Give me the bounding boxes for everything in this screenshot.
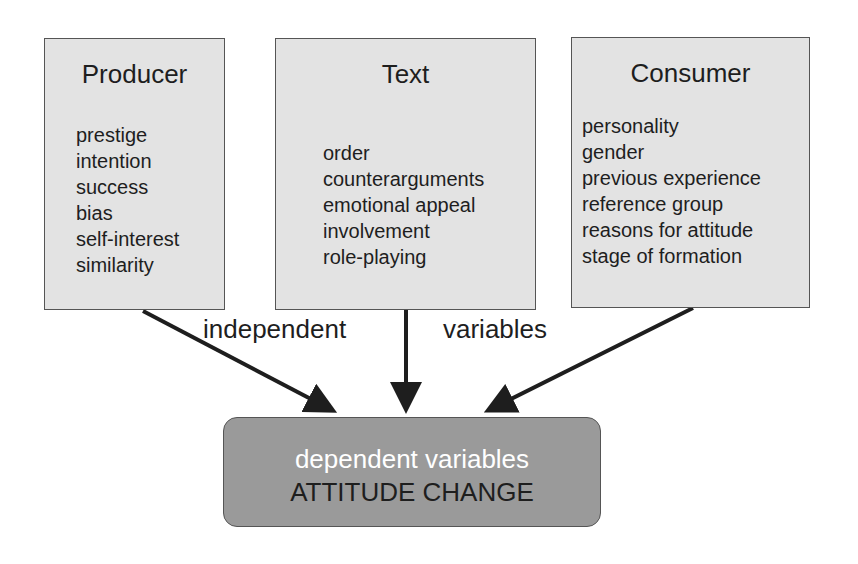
list-item: intention [76, 148, 179, 174]
list-item: previous experience [582, 165, 761, 191]
list-item: emotional appeal [323, 192, 484, 218]
producer-list: prestige intention success bias self-int… [76, 122, 179, 278]
list-item: reference group [582, 191, 761, 217]
list-item: role-playing [323, 244, 484, 270]
list-item: personality [582, 113, 761, 139]
consumer-list: personality gender previous experience r… [582, 113, 761, 269]
box-title: Text [276, 59, 535, 90]
list-item: self-interest [76, 226, 179, 252]
list-item: gender [582, 139, 761, 165]
list-item: stage of formation [582, 243, 761, 269]
list-item: counterarguments [323, 166, 484, 192]
dependent-variables-label: dependent variables [224, 444, 600, 475]
producer-box: Producer prestige intention success bias… [44, 38, 225, 310]
independent-label: independent [203, 314, 346, 345]
text-list: order counterarguments emotional appeal … [323, 140, 484, 270]
list-item: reasons for attitude [582, 217, 761, 243]
box-title: Consumer [572, 58, 809, 89]
list-item: bias [76, 200, 179, 226]
list-item: similarity [76, 252, 179, 278]
attitude-change-label: ATTITUDE CHANGE [224, 477, 600, 508]
box-title: Producer [45, 59, 224, 90]
attitude-change-box: dependent variables ATTITUDE CHANGE [223, 417, 601, 527]
text-box: Text order counterarguments emotional ap… [275, 38, 536, 310]
list-item: order [323, 140, 484, 166]
consumer-box: Consumer personality gender previous exp… [571, 37, 810, 308]
list-item: success [76, 174, 179, 200]
list-item: prestige [76, 122, 179, 148]
variables-label: variables [443, 314, 547, 345]
list-item: involvement [323, 218, 484, 244]
